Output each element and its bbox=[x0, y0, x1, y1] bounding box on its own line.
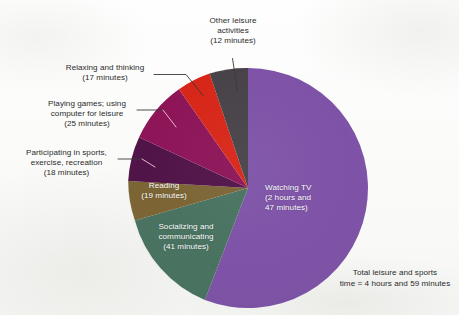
slice-label-reading: Reading (19 minutes) bbox=[132, 181, 196, 201]
pie-chart-figure: Other leisure activities (12 minutes) Re… bbox=[0, 0, 459, 315]
slice-label-playing-games: Playing games; using computer for leisur… bbox=[38, 99, 136, 129]
slice-label-relaxing: Relaxing and thinking (17 minutes) bbox=[56, 63, 154, 83]
slice-label-socializing: Socializing and communicating (41 minute… bbox=[146, 222, 226, 252]
slice-label-other-leisure: Other leisure activities (12 minutes) bbox=[196, 16, 270, 46]
slice-label-sports: Participating in sports, exercise, recre… bbox=[16, 148, 117, 178]
total-leisure-note: Total leisure and sports time = 4 hours … bbox=[333, 268, 457, 289]
slice-label-watching-tv: Watching TV (2 hours and 47 minutes) bbox=[265, 183, 341, 213]
